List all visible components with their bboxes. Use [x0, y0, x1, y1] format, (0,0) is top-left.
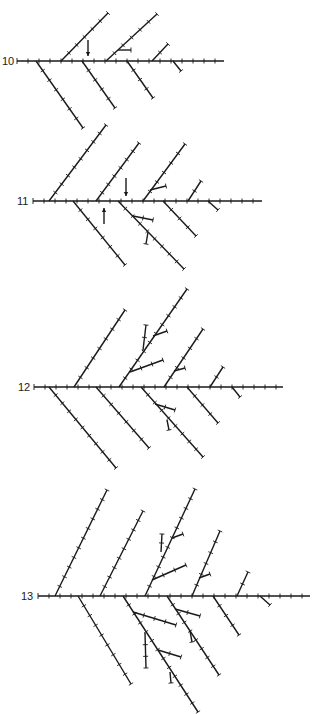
lateral-branch [208, 201, 218, 210]
branching-diagram [0, 0, 318, 714]
stage-label: 13 [21, 591, 33, 602]
lateral-branch [118, 201, 184, 269]
lateral-branch [82, 61, 115, 108]
lateral-branch [96, 143, 139, 201]
lateral-branch [130, 360, 163, 372]
lateral-branch [152, 565, 186, 580]
lateral-branch [232, 387, 240, 397]
lateral-branch [123, 596, 198, 712]
node-tick [167, 430, 172, 431]
node-tick [184, 366, 185, 371]
arrowhead-icon [102, 208, 106, 212]
lateral-branch [55, 490, 107, 596]
lateral-branch [119, 289, 187, 387]
node-tick [142, 337, 147, 338]
lateral-branch [146, 232, 148, 244]
lateral-branch [170, 672, 171, 683]
node-tick [144, 325, 149, 326]
node-tick [153, 218, 154, 223]
arrowhead-icon [86, 52, 90, 56]
lateral-branch [167, 596, 219, 675]
node-tick [144, 244, 149, 245]
stage-label: 10 [2, 56, 14, 67]
node-tick [165, 184, 166, 189]
lateral-branch [167, 420, 169, 430]
lateral-branch [153, 331, 167, 336]
lateral-branch [73, 201, 125, 265]
node-tick [143, 216, 144, 221]
node-tick [190, 642, 195, 643]
lateral-branch [173, 61, 181, 71]
lateral-branch [36, 61, 83, 128]
lateral-branch [49, 125, 106, 201]
stage-label: 11 [17, 196, 28, 207]
stage-label: 12 [18, 382, 30, 393]
lateral-branch [78, 596, 131, 684]
lateral-branch [145, 633, 146, 668]
lateral-branch [96, 387, 149, 448]
arrowhead-icon [124, 192, 128, 196]
lateral-branch [100, 511, 143, 596]
lateral-branch [260, 596, 270, 605]
